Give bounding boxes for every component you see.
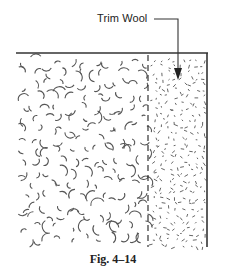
trim-wool-label: Trim Wool	[97, 12, 147, 24]
trim-wool-diagram	[0, 0, 226, 268]
figure-caption: Fig. 4–14	[0, 252, 226, 267]
trim-wool-texture	[149, 59, 207, 251]
leader-line	[154, 19, 178, 70]
insulation-texture	[18, 54, 153, 247]
